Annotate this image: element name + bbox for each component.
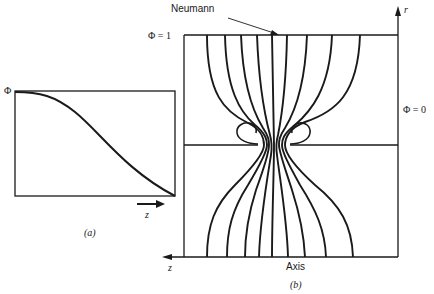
phi-1-label: Φ = 1 — [148, 31, 171, 41]
phi-label: Φ — [4, 86, 11, 96]
field-line — [207, 35, 264, 257]
r-label: r — [404, 5, 408, 15]
right-curl — [290, 123, 310, 144]
neumann-pointer — [228, 18, 277, 34]
caption-a: (a) — [84, 228, 96, 238]
phi-0-label: Φ = 0 — [403, 105, 426, 115]
field-lines — [207, 35, 360, 257]
field-line — [282, 35, 332, 257]
panel-b — [162, 6, 401, 260]
left-curl — [237, 123, 258, 144]
r-arrowhead-icon — [395, 6, 401, 16]
z-label-a: z — [145, 210, 149, 220]
neumann-arrowhead-icon — [270, 30, 279, 35]
potential-curve — [15, 92, 175, 196]
field-line — [279, 35, 307, 257]
figure-canvas — [0, 0, 434, 294]
neumann-label: Neumann — [171, 4, 214, 14]
z-arrowhead-icon — [156, 200, 165, 208]
z-label-b: z — [168, 263, 172, 273]
panel-a — [15, 91, 175, 208]
caption-b: (b) — [290, 280, 302, 290]
field-line — [285, 35, 360, 257]
axis-label: Axis — [286, 262, 305, 272]
z-axis-arrowhead-icon — [162, 254, 172, 260]
